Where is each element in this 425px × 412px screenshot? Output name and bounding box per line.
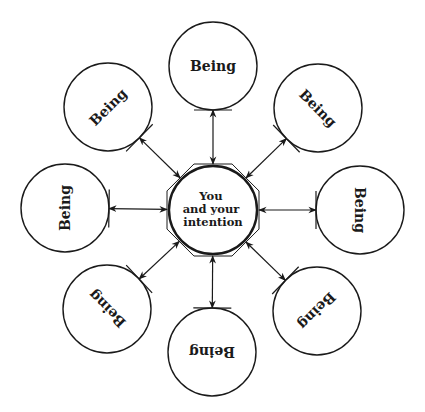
connector-arrow-bottom-left	[139, 241, 179, 279]
node-bottom-left: Being	[63, 265, 152, 353]
center-label-line-2: and your	[183, 202, 241, 216]
connector-arrow-top-left	[139, 138, 180, 178]
node-left: Being	[21, 164, 109, 252]
center-node: You and your intention	[167, 164, 259, 256]
connector-arrow-left	[109, 209, 167, 210]
center-label-line-3: intention	[183, 215, 243, 229]
node-label: Being	[352, 187, 368, 233]
node-top-right: Being	[273, 64, 362, 152]
node-label: Being	[190, 58, 236, 74]
connector-arrow-bottom-right	[246, 242, 285, 280]
node-label: Being	[189, 344, 235, 360]
center-label-line-1: You	[198, 189, 222, 203]
node-top-left: Being	[64, 63, 153, 151]
being-diagram: BeingBeingBeingBeingBeingBeingBeingBeing…	[0, 0, 425, 412]
node-top: Being	[169, 22, 257, 110]
node-bottom: Being	[168, 308, 256, 396]
node-right: Being	[316, 166, 404, 254]
connector-arrow-top-right	[246, 139, 286, 178]
node-bottom-right: Being	[272, 267, 361, 355]
tangent-line	[109, 190, 110, 228]
node-label: Being	[57, 185, 73, 231]
